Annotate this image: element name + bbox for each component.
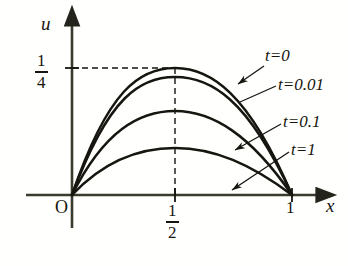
y-axis-label: u bbox=[41, 14, 51, 33]
figure-container: u x O 1 4 1 2 1 t=0 t=0.01 t=0.1 t=1 bbox=[0, 0, 348, 266]
x-tick-half-denominator: 2 bbox=[166, 224, 179, 242]
x-tick-label-one: 1 bbox=[286, 199, 295, 216]
annotation-t-0: t=0 bbox=[265, 47, 290, 64]
y-tick-quarter-denominator: 4 bbox=[35, 74, 48, 92]
x-tick-label-half: 1 2 bbox=[166, 202, 179, 242]
curve-t-0 bbox=[72, 68, 292, 195]
leader-line-t-0 bbox=[238, 66, 264, 84]
x-tick-half-numerator: 1 bbox=[166, 202, 179, 220]
annotation-t-0-1: t=0.1 bbox=[283, 113, 320, 130]
leader-line-t-0-01 bbox=[240, 86, 276, 102]
x-axis-label: x bbox=[326, 196, 334, 215]
origin-label: O bbox=[55, 198, 68, 216]
y-tick-quarter-numerator: 1 bbox=[35, 52, 48, 70]
y-tick-label-quarter: 1 4 bbox=[35, 52, 48, 92]
annotation-t-1: t=1 bbox=[291, 141, 316, 158]
annotation-t-0-01: t=0.01 bbox=[278, 76, 324, 93]
